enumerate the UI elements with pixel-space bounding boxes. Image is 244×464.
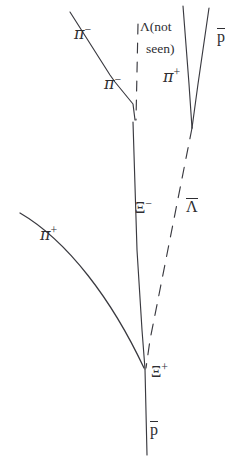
lambda-neutral-track: [136, 24, 138, 120]
label-pi-minus-upper: π−: [74, 23, 91, 43]
pi-plus-top-charge: +: [174, 65, 181, 79]
pi-plus-left-charge: +: [51, 223, 58, 237]
xi-minus-track: [133, 122, 145, 369]
label-antiproton-bottom: p: [150, 420, 158, 438]
xi-plus-symbol: Ξ: [151, 363, 161, 380]
particle-tracks-canvas: [0, 0, 244, 464]
pi-plus-top-symbol: π: [163, 67, 174, 86]
label-xi-minus: Ξ−: [135, 197, 152, 217]
label-xi-plus: Ξ+: [151, 361, 168, 381]
pi-plus-upper-track: [192, 8, 209, 128]
label-pi-plus-left: π+: [40, 224, 57, 244]
antiproton-top-symbol: p: [217, 27, 225, 45]
label-lambda-bar: Λ: [186, 197, 198, 215]
xi-minus-charge: −: [145, 196, 152, 210]
lambda-bar-track: [146, 128, 192, 368]
lambda-bar-symbol: Λ: [186, 197, 198, 215]
label-lambda-not-seen-line1: Λ(not: [140, 20, 172, 35]
xi-plus-charge: +: [161, 360, 168, 374]
pi-minus-lower-charge: −: [115, 72, 122, 86]
label-pi-minus-lower: π−: [104, 73, 121, 93]
label-lambda-not-seen-line2: seen): [146, 42, 174, 57]
bubble-chamber-diagram: π− π− Λ(not seen) π+ p Ξ− Λ π+ Ξ+ p: [0, 0, 244, 464]
pi-plus-track: [20, 213, 144, 368]
pi-minus-upper-charge: −: [85, 22, 92, 36]
pi-plus-left-symbol: π: [40, 225, 51, 244]
antiproton-bottom-symbol: p: [150, 420, 158, 438]
pi-minus-lower-symbol: π: [104, 74, 115, 93]
label-antiproton-top: p: [217, 27, 225, 45]
label-pi-plus-top: π+: [163, 66, 180, 86]
xi-minus-symbol: Ξ: [135, 199, 145, 216]
pi-minus-upper-symbol: π: [74, 24, 85, 43]
antiproton-upper-track: [183, 6, 192, 128]
antiproton-lower-track: [145, 369, 147, 455]
